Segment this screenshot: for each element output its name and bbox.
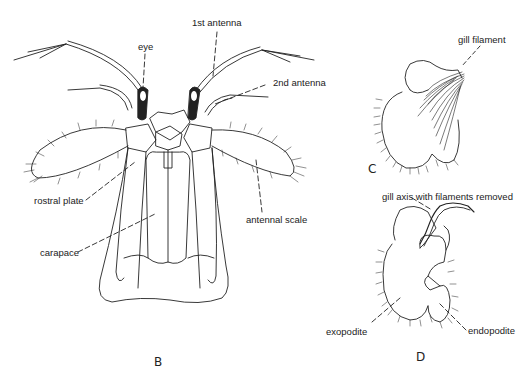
- leader-lines-b: [78, 32, 265, 252]
- label-gill-axis: gill axis with filaments removed: [382, 192, 513, 202]
- label-endopodite: endopodite: [468, 326, 515, 336]
- label-rostral-plate: rostral plate: [34, 196, 84, 206]
- label-antennal-scale: antennal scale: [246, 215, 307, 225]
- panel-label-d: D: [416, 351, 425, 363]
- panel-label-b: B: [154, 356, 162, 368]
- label-exopodite: exopodite: [326, 327, 367, 337]
- specimen-b-drawing: [14, 41, 314, 303]
- diagram-canvas: eye 1st antenna 2nd antenna rostral plat…: [0, 0, 526, 378]
- label-second-antenna: 2nd antenna: [273, 78, 326, 88]
- specimen-c-drawing: [374, 60, 464, 174]
- specimen-d-drawing: [376, 203, 474, 328]
- leader-lines-d: [372, 198, 466, 330]
- panel-label-c: C: [368, 163, 376, 175]
- label-carapace: carapace: [40, 248, 79, 258]
- label-first-antenna: 1st antenna: [192, 18, 242, 28]
- label-gill-filament: gill filament: [458, 35, 506, 45]
- label-eye: eye: [138, 42, 153, 52]
- line-drawing: [0, 0, 526, 378]
